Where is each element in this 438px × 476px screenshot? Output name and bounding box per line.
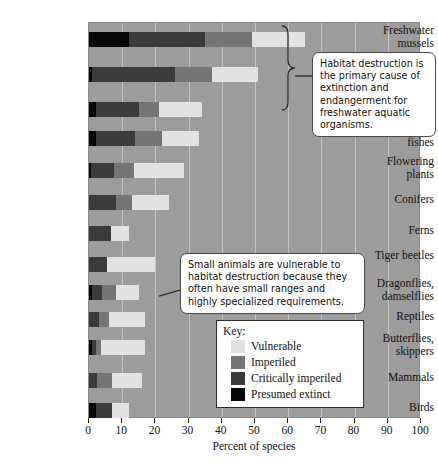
x-tick [254,418,255,423]
category-label: Freshwatermussels [354,24,438,49]
bar-segment-critically-imperiled [129,32,205,47]
bar-segment-imperiled [114,163,134,178]
legend-item: Imperiled [223,354,357,370]
bar-segment-critically-imperiled [92,285,102,300]
category-label: Tiger beetles [354,249,438,262]
category-label: Conifers [354,193,438,206]
bar-segment-vulnerable [252,32,305,47]
bar-segment-vulnerable [109,312,146,327]
bar-segment-critically-imperiled [96,131,136,146]
bar-segment-critically-imperiled [89,226,111,241]
bar-segment-imperiled [97,373,112,388]
gridline [189,23,190,417]
bar-segment-imperiled [102,285,115,300]
category-label: Birds [354,401,438,414]
bar-segment-imperiled [139,102,159,117]
legend-label: Critically imperiled [251,372,341,384]
category-label: Floweringplants [354,155,438,180]
x-tick-label: 30 [173,424,203,436]
callout-habitat-destruction: Habitat destruction is the primary cause… [312,52,436,137]
legend-item: Vulnerable [223,338,357,354]
bar-segment-critically-imperiled [92,67,175,82]
bar-segment-critically-imperiled [96,102,139,117]
category-label: Mammals [354,371,438,384]
category-label: Dragonflies,damselflies [354,277,438,302]
x-tick-label: 0 [73,424,103,436]
x-tick [320,418,321,423]
bar-segment-vulnerable [112,373,142,388]
bar-segment-imperiled [116,195,133,210]
x-tick-label: 50 [239,424,269,436]
x-tick-label: 20 [139,424,169,436]
x-tick-label: 80 [339,424,369,436]
gridline [122,23,123,417]
legend-title: Key: [223,325,357,337]
bar-segment-vulnerable [159,102,202,117]
x-tick [387,418,388,423]
bar-segment-imperiled [205,32,251,47]
legend-label: Presumed extinct [251,388,331,400]
callout-small-animals: Small animals are vulnerable to habitat … [180,253,365,314]
bar-segment-presumed-extinct [89,131,96,146]
bar-segment-critically-imperiled [91,163,114,178]
x-tick-label: 100 [405,424,435,436]
x-axis-title: Percent of species [88,440,420,452]
bar-segment-critically-imperiled [89,195,116,210]
legend-swatch [231,340,245,353]
x-tick [354,418,355,423]
bar-segment-vulnerable [132,195,169,210]
legend-items: VulnerableImperiledCritically imperiledP… [223,338,357,402]
category-label: Ferns [354,224,438,237]
bar-segment-imperiled [135,131,162,146]
category-label: Butterflies,skippers [354,332,438,357]
x-tick-label: 40 [206,424,236,436]
bar-segment-critically-imperiled [89,373,97,388]
x-tick [188,418,189,423]
bar-segment-vulnerable [212,67,258,82]
x-tick [221,418,222,423]
bar-segment-vulnerable [107,257,155,272]
legend-item: Critically imperiled [223,370,357,386]
bar-segment-vulnerable [101,340,146,355]
bar-segment-presumed-extinct [89,403,96,418]
bar-segment-critically-imperiled [89,257,107,272]
figure-stacked-bar-chart: FreshwatermusselsCrayfishesAmphibiansFre… [0,0,438,476]
x-tick [88,418,89,423]
bar-segment-vulnerable [134,163,184,178]
x-tick [154,418,155,423]
bar-segment-vulnerable [112,403,129,418]
legend-swatch [231,372,245,385]
x-tick-label: 70 [305,424,335,436]
x-tick [121,418,122,423]
category-label: Reptiles [354,310,438,323]
x-tick [287,418,288,423]
x-tick [420,418,421,423]
x-tick-label: 10 [106,424,136,436]
bar-segment-vulnerable [111,226,129,241]
legend-label: Imperiled [251,356,296,368]
legend-swatch [231,356,245,369]
x-tick-label: 90 [372,424,402,436]
bar-segment-imperiled [175,67,212,82]
bar-segment-critically-imperiled [89,312,99,327]
bar-segment-imperiled [99,312,109,327]
legend-item: Presumed extinct [223,386,357,402]
bar-segment-vulnerable [116,285,139,300]
legend: Key: VulnerableImperiledCritically imper… [216,320,364,408]
bar-segment-critically-imperiled [96,403,113,418]
legend-swatch [231,388,245,401]
bar-segment-presumed-extinct [89,102,96,117]
gridline [155,23,156,417]
legend-label: Vulnerable [251,340,301,352]
x-tick-label: 60 [272,424,302,436]
bar-segment-presumed-extinct [89,32,129,47]
bar-segment-vulnerable [162,131,199,146]
